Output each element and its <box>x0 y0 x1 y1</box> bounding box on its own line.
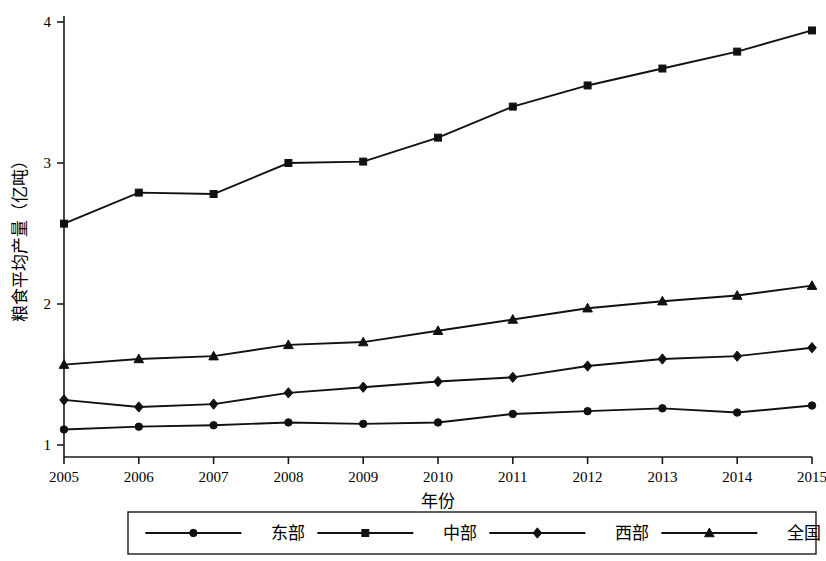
marker-diamond <box>284 388 293 398</box>
x-tick-label: 2014 <box>722 469 753 485</box>
marker-square <box>210 191 217 198</box>
legend-item-中部[interactable]: 中部 <box>317 524 477 543</box>
legend-item-全国[interactable]: 全国 <box>661 524 821 543</box>
marker-square <box>435 134 442 141</box>
y-tick-label: 4 <box>44 14 52 30</box>
y-axis-title: 粮食平均产量（亿吨） <box>11 152 30 322</box>
x-axis-ticks: 2005200620072008200920102011201220132014… <box>49 457 826 485</box>
x-tick-label: 2005 <box>49 469 79 485</box>
marker-triangle <box>807 281 817 290</box>
x-tick-label: 2012 <box>573 469 603 485</box>
marker-diamond <box>60 395 69 405</box>
axes <box>64 16 812 457</box>
marker-diamond <box>209 399 218 409</box>
x-tick-label: 2008 <box>273 469 303 485</box>
marker-diamond <box>733 351 742 361</box>
marker-square <box>809 27 816 34</box>
series-全国 <box>59 281 817 369</box>
marker-square <box>61 220 68 227</box>
legend-item-西部[interactable]: 西部 <box>489 524 649 543</box>
y-tick-label: 3 <box>44 155 52 171</box>
legend: 东部中部西部全国 <box>128 512 821 554</box>
series-line <box>64 30 812 223</box>
marker-diamond <box>508 372 517 382</box>
marker-diamond <box>359 382 368 392</box>
marker-square <box>584 82 591 89</box>
x-tick-label: 2011 <box>498 469 527 485</box>
marker-square <box>135 189 142 196</box>
marker-diamond <box>134 402 143 412</box>
x-tick-label: 2010 <box>423 469 453 485</box>
line-chart: 1234200520062007200820092010201120122013… <box>0 0 826 561</box>
marker-square <box>360 158 367 165</box>
legend-item-label: 中部 <box>443 524 477 543</box>
x-tick-label: 2009 <box>348 469 378 485</box>
x-axis-title: 年份 <box>421 492 455 511</box>
x-tick-label: 2007 <box>199 469 230 485</box>
marker-circle <box>808 402 815 409</box>
marker-square <box>659 65 666 72</box>
marker-diamond <box>434 376 443 386</box>
x-tick-label: 2015 <box>797 469 826 485</box>
marker-circle <box>135 423 142 430</box>
marker-diamond <box>658 354 667 364</box>
marker-circle <box>60 426 67 433</box>
marker-circle <box>210 422 217 429</box>
marker-circle <box>434 419 441 426</box>
marker-diamond <box>583 361 592 371</box>
legend-item-label: 西部 <box>615 524 649 543</box>
marker-circle <box>190 529 197 536</box>
axis-lines <box>64 16 812 457</box>
marker-circle <box>584 407 591 414</box>
y-tick-label: 1 <box>44 437 52 453</box>
marker-square <box>285 160 292 167</box>
chart-container: 1234200520062007200820092010201120122013… <box>0 0 826 561</box>
marker-circle <box>509 410 516 417</box>
legend-item-东部[interactable]: 东部 <box>145 524 305 543</box>
marker-diamond <box>533 528 542 538</box>
x-tick-label: 2013 <box>647 469 677 485</box>
marker-circle <box>733 409 740 416</box>
y-axis-ticks: 1234 <box>44 14 65 453</box>
legend-item-label: 全国 <box>787 524 821 543</box>
marker-square <box>734 48 741 55</box>
x-tick-label: 2006 <box>124 469 155 485</box>
series-中部 <box>61 27 816 227</box>
marker-circle <box>285 419 292 426</box>
y-tick-label: 2 <box>44 296 52 312</box>
series-西部 <box>60 343 817 413</box>
marker-diamond <box>808 343 817 353</box>
legend-item-label: 东部 <box>271 524 305 543</box>
marker-circle <box>359 420 366 427</box>
marker-circle <box>659 405 666 412</box>
marker-square <box>362 530 369 537</box>
marker-square <box>509 103 516 110</box>
